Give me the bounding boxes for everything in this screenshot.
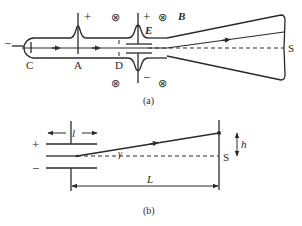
b-field-into-page-icon: ⊗ [111, 77, 120, 89]
tube-flare-bottom [167, 56, 285, 80]
label-plus-b: + [32, 137, 39, 152]
label-a: A [74, 59, 82, 71]
label-b-field: B [177, 10, 185, 22]
cathode-minus: − [4, 36, 11, 51]
screen-face [284, 20, 285, 75]
diagram-root: + + − − C A D E B S ⊗ ⊗ ⊗ ⊗ (a) [0, 0, 302, 226]
b-field-into-page-icon: ⊗ [158, 77, 167, 89]
tube-outline-top [34, 26, 128, 38]
impact-point [217, 131, 221, 135]
label-gamma-angle: γ [118, 148, 123, 159]
b-field-into-page-icon: ⊗ [111, 11, 120, 23]
label-l-length: l [72, 127, 75, 139]
cathode-ray-diagram: + + − − C A D E B S ⊗ ⊗ ⊗ ⊗ (a) [0, 0, 302, 226]
figure-b-labels: l + − γ L h S (b) [32, 127, 247, 217]
label-L-distance: L [146, 173, 153, 185]
caption-a: (a) [143, 95, 154, 107]
upper-plate-plus: + [143, 9, 150, 24]
label-s-screen: S [288, 42, 294, 54]
label-e-field: E [144, 24, 152, 36]
deflected-beam-b [77, 133, 219, 156]
deflected-beam-arrow [222, 40, 228, 41]
label-minus-b: − [32, 161, 39, 176]
label-s-screen-b: S [223, 151, 229, 163]
caption-b: (b) [143, 205, 155, 217]
label-c: C [26, 59, 33, 71]
label-h-deflection: h [241, 138, 247, 150]
beam-entry-point [76, 155, 79, 158]
b-field-into-page-icon: ⊗ [158, 11, 167, 23]
lower-plate-minus: − [143, 70, 150, 85]
anode-a-plus: + [84, 9, 91, 24]
label-d: D [115, 59, 123, 71]
